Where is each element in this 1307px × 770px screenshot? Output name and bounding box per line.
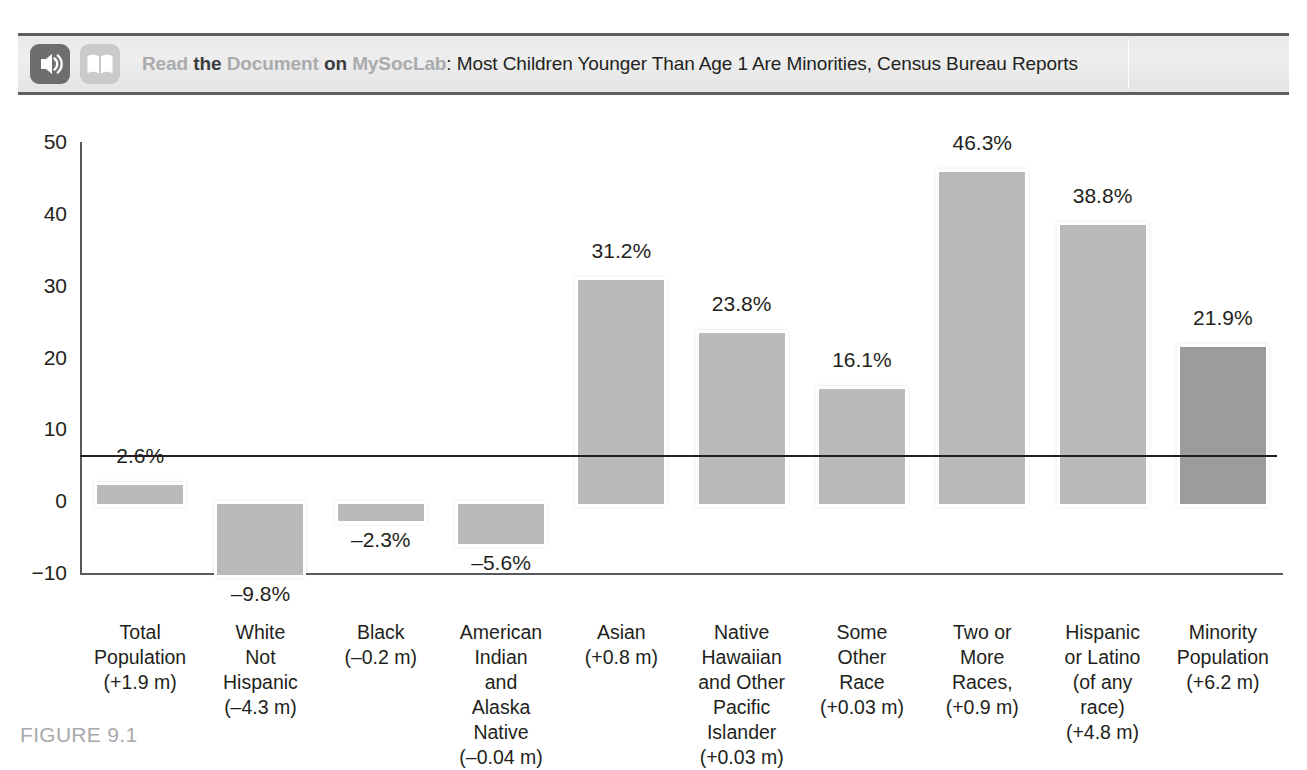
bar-group: 2.6%Total Population (+1.9 m): [80, 142, 200, 573]
bar-value-label: 23.8%: [712, 292, 772, 316]
bar-group: 46.3%Two or More Races, (+0.9 m): [922, 142, 1042, 573]
bar[interactable]: [214, 501, 306, 577]
banner-on-label: on: [324, 53, 347, 74]
bar-value-label: 21.9%: [1193, 306, 1253, 330]
plot-area: 2.6%Total Population (+1.9 m)–9.8%White …: [80, 142, 1283, 573]
banner-mysoclab-label: MySocLab: [352, 53, 446, 74]
banner-read-label: Read: [142, 53, 188, 74]
bar-value-label: 46.3%: [952, 131, 1012, 155]
bar-group: 38.8%Hispanic or Latino (of any race) (+…: [1042, 142, 1162, 573]
y-axis-tick-label: 10: [7, 417, 67, 441]
bar-chart: 50403020100−10 2.6%Total Population (+1.…: [0, 110, 1307, 710]
bar[interactable]: [575, 277, 667, 507]
x-axis-category-label: Black (–0.2 m): [319, 620, 443, 670]
bar-value-label: –2.3%: [351, 528, 411, 552]
x-axis-category-label: Native Hawaiian and Other Pacific Island…: [680, 620, 804, 770]
audio-waves-icon[interactable]: [30, 44, 70, 84]
bar-group: 21.9%Minority Population (+6.2 m): [1163, 142, 1283, 573]
bar-group: 23.8%Native Hawaiian and Other Pacific I…: [682, 142, 802, 573]
bar-group: 31.2%Asian (+0.8 m): [561, 142, 681, 573]
mysoclab-banner[interactable]: Read the Document on MySocLab: Most Chil…: [18, 33, 1289, 95]
zero-reference-line: [80, 455, 1277, 457]
x-axis-category-label: Hispanic or Latino (of any race) (+4.8 m…: [1041, 620, 1165, 745]
bar-group: 16.1%Some Other Race (+0.03 m): [802, 142, 922, 573]
bar[interactable]: [1177, 344, 1269, 507]
bar[interactable]: [816, 386, 908, 508]
banner-divider: [1128, 39, 1129, 89]
bar-value-label: 16.1%: [832, 348, 892, 372]
bar[interactable]: [455, 501, 547, 547]
y-axis-tick-label: 30: [7, 274, 67, 298]
x-axis-category-label: American Indian and Alaska Native (–0.04…: [439, 620, 563, 770]
bar-value-label: –5.6%: [471, 551, 531, 575]
y-axis-tick-label: 50: [7, 130, 67, 154]
banner-document-label: Document: [227, 53, 319, 74]
bar-value-label: –9.8%: [231, 582, 291, 606]
y-axis-tick-label: 40: [7, 202, 67, 226]
banner-article-title: : Most Children Younger Than Age 1 Are M…: [446, 53, 1077, 74]
bar-group: –2.3%Black (–0.2 m): [321, 142, 441, 573]
bar[interactable]: [696, 330, 788, 507]
bar-group: –9.8%White Not Hispanic (–4.3 m): [200, 142, 320, 573]
x-axis-category-label: Asian (+0.8 m): [559, 620, 683, 670]
bar-group: –5.6%American Indian and Alaska Native (…: [441, 142, 561, 573]
figure-caption: FIGURE 9.1: [20, 723, 137, 747]
bar-value-label: 38.8%: [1073, 184, 1133, 208]
bar[interactable]: [335, 501, 427, 524]
open-book-icon[interactable]: [80, 44, 120, 84]
x-axis-category-label: Some Other Race (+0.03 m): [800, 620, 924, 720]
bar-value-label: 31.2%: [592, 239, 652, 263]
x-axis-category-label: White Not Hispanic (–4.3 m): [198, 620, 322, 720]
banner-text: Read the Document on MySocLab: Most Chil…: [142, 53, 1078, 75]
banner-the-label: the: [193, 53, 221, 74]
x-axis-category-label: Two or More Races, (+0.9 m): [920, 620, 1044, 720]
bar[interactable]: [1057, 222, 1149, 507]
x-axis-category-label: Total Population (+1.9 m): [78, 620, 202, 695]
y-axis-tick-label: −10: [7, 561, 67, 585]
y-axis-tick-label: 0: [7, 489, 67, 513]
x-axis-category-label: Minority Population (+6.2 m): [1161, 620, 1285, 695]
bar[interactable]: [94, 482, 186, 507]
y-axis-tick-label: 20: [7, 346, 67, 370]
